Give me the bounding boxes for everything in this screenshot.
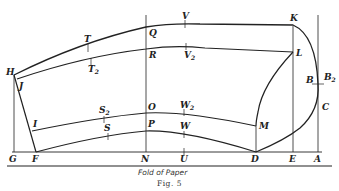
curve-L-M bbox=[256, 52, 293, 126]
label-R: R bbox=[148, 50, 157, 60]
line-H-F bbox=[14, 75, 36, 152]
outer-curve bbox=[14, 24, 318, 152]
label-M: M bbox=[258, 121, 270, 131]
label-W: W bbox=[180, 121, 191, 131]
label-G: G bbox=[9, 154, 17, 164]
label-I: I bbox=[32, 119, 38, 129]
label-U: U bbox=[180, 154, 189, 164]
label-D: D bbox=[250, 154, 259, 164]
label-O: O bbox=[148, 102, 156, 112]
label-T2: T2 bbox=[88, 64, 99, 75]
label-N: N bbox=[140, 154, 150, 164]
label-B: B bbox=[305, 75, 314, 85]
label-P: P bbox=[147, 119, 155, 129]
label-K: K bbox=[289, 13, 299, 23]
fold-caption: Fold of Paper bbox=[138, 168, 188, 177]
label-C: C bbox=[322, 102, 330, 112]
label-Q: Q bbox=[149, 28, 157, 38]
label-A: A bbox=[313, 154, 321, 164]
label-E: E bbox=[288, 154, 296, 164]
label-S: S bbox=[104, 123, 111, 133]
label-W2: W2 bbox=[180, 100, 194, 111]
label-S2: S2 bbox=[99, 105, 110, 116]
label-H: H bbox=[5, 67, 15, 77]
pattern-diagram: H J T T2 Q R V V2 K L B B2 C M I S2 S O … bbox=[0, 0, 339, 191]
figure-number: Fig. 5 bbox=[157, 179, 182, 188]
label-F: F bbox=[31, 154, 39, 164]
label-V: V bbox=[182, 11, 190, 21]
label-B2: B2 bbox=[323, 72, 336, 83]
label-L: L bbox=[295, 48, 302, 58]
label-J: J bbox=[17, 81, 24, 91]
label-V2: V2 bbox=[184, 50, 195, 61]
curve-I-M bbox=[32, 113, 256, 131]
